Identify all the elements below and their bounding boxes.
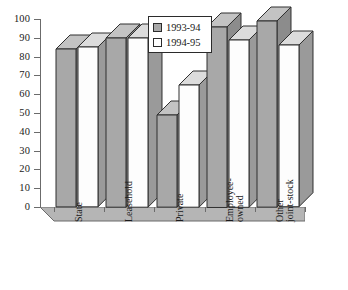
y-tick-label-40: 40 <box>4 127 30 137</box>
legend-item-1993-94: 1993-94 <box>153 20 211 35</box>
y-tick-label-wrap-100: 100 <box>0 14 40 24</box>
chart-legend: 1993-94 1994-95 <box>148 16 212 53</box>
category-label-0: State <box>74 202 84 222</box>
y-tick-label-wrap-10: 10 <box>0 183 40 193</box>
y-tick-label-wrap-20: 20 <box>0 164 40 174</box>
category-label-1: Leasehold <box>124 181 134 222</box>
y-tick-label-100: 100 <box>4 14 30 24</box>
y-tick-label-50: 50 <box>4 108 30 118</box>
category-label-2: Private <box>175 194 185 222</box>
y-tick-label-wrap-80: 80 <box>0 52 40 62</box>
category-label-0-line-0: State <box>74 202 84 222</box>
x-tick-4 <box>255 207 256 212</box>
y-tick-label-wrap-50: 50 <box>0 108 40 118</box>
bar-chart: 1009080706050403020100 StateLeaseholdPri… <box>0 0 348 290</box>
y-tick-label-wrap-90: 90 <box>0 33 40 43</box>
x-tick-3 <box>205 207 206 212</box>
category-label-3: Employee-owned <box>225 178 245 222</box>
y-tick-label-70: 70 <box>4 70 30 80</box>
category-label-3-line-1: owned <box>235 178 245 222</box>
x-tick-5 <box>305 207 306 212</box>
x-tick-0 <box>54 207 55 212</box>
legend-item-1994-95: 1994-95 <box>153 35 211 50</box>
y-tick-label-90: 90 <box>4 33 30 43</box>
legend-swatch-icon-1994-95 <box>153 38 162 47</box>
y-tick-label-20: 20 <box>4 164 30 174</box>
category-label-4-line-1: joint-stock <box>285 179 295 222</box>
legend-label-1994-95: 1994-95 <box>166 37 200 48</box>
category-label-1-line-0: Leasehold <box>124 181 134 222</box>
legend-swatch-icon-1993-94 <box>153 23 162 32</box>
y-tick-label-30: 30 <box>4 146 30 156</box>
y-tick-label-wrap-70: 70 <box>0 70 40 80</box>
legend-label-1993-94: 1993-94 <box>166 22 200 33</box>
y-axis-line <box>40 19 41 207</box>
y-tick-label-wrap-0: 0 <box>0 202 40 212</box>
x-tick-1 <box>104 207 105 212</box>
y-tick-label-wrap-30: 30 <box>0 146 40 156</box>
x-tick-2 <box>154 207 155 212</box>
category-label-4: Otherjoint-stock <box>275 179 295 222</box>
y-tick-label-0: 0 <box>4 202 30 212</box>
y-tick-label-80: 80 <box>4 52 30 62</box>
y-tick-label-wrap-40: 40 <box>0 127 40 137</box>
y-tick-label-wrap-60: 60 <box>0 89 40 99</box>
y-tick-label-60: 60 <box>4 89 30 99</box>
y-tick-label-10: 10 <box>4 183 30 193</box>
category-label-2-line-0: Private <box>175 194 185 222</box>
